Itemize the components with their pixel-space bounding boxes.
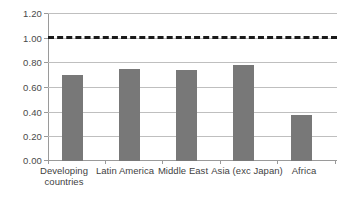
y-axis-tick-label-0.60: 0.60 bbox=[2, 83, 42, 93]
bar-middle-east bbox=[176, 70, 197, 161]
x-axis-tick-label-developing-countries: Developing countries bbox=[34, 165, 94, 187]
reference-line-1.00 bbox=[48, 36, 337, 39]
x-axis-tick-label-asia-exc-japan: Asia (exc Japan) bbox=[209, 165, 285, 176]
x-axis-tick-label-latin-america: Latin America bbox=[94, 165, 156, 176]
x-tick-mark bbox=[335, 161, 336, 164]
y-axis-tick-label-1.00: 1.00 bbox=[2, 34, 42, 44]
bar-latin-america bbox=[119, 69, 140, 162]
bar-chart: 1.20 1.00 0.80 0.60 0.40 0.20 0.00 Devel… bbox=[0, 0, 346, 205]
x-axis-labels: Developing countries Latin America Middl… bbox=[0, 165, 346, 205]
x-tick-mark bbox=[277, 161, 278, 164]
x-axis-tick-label-africa: Africa bbox=[280, 165, 328, 176]
y-axis-tick-label-0.40: 0.40 bbox=[2, 108, 42, 118]
x-tick-mark bbox=[48, 161, 49, 164]
bar-asia-exc-japan bbox=[233, 65, 254, 161]
x-tick-mark bbox=[162, 161, 163, 164]
y-axis-tick-label-0.20: 0.20 bbox=[2, 132, 42, 142]
bar-africa bbox=[291, 115, 312, 161]
x-tick-mark bbox=[220, 161, 221, 164]
bar-developing-countries bbox=[62, 75, 83, 161]
y-axis-tick-label-0.80: 0.80 bbox=[2, 58, 42, 68]
x-tick-mark bbox=[105, 161, 106, 164]
y-axis-tick-label-1.20: 1.20 bbox=[2, 9, 42, 19]
x-axis-tick-label-middle-east: Middle East bbox=[153, 165, 213, 176]
